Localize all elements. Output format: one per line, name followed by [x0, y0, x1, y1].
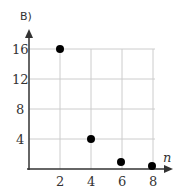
- axes: [25, 29, 173, 173]
- y-tick-12: 12: [12, 72, 29, 87]
- gridlines: [29, 49, 155, 169]
- x-tick-6: 6: [118, 174, 126, 189]
- panel-label: B): [20, 10, 32, 23]
- chart: 16 12 8 4 2 4 6 8 n B): [0, 0, 181, 190]
- y-tick-8: 8: [16, 102, 24, 117]
- x-axis-label: n: [163, 150, 171, 165]
- data-points: [56, 45, 156, 170]
- x-axis-arrow-icon: [164, 165, 173, 173]
- data-point: [148, 162, 156, 170]
- y-tick-16: 16: [12, 42, 29, 57]
- data-point: [87, 135, 95, 143]
- x-tick-8: 8: [149, 174, 157, 189]
- x-tick-4: 4: [87, 174, 95, 189]
- data-point: [117, 158, 125, 166]
- y-tick-4: 4: [16, 132, 24, 147]
- x-tick-2: 2: [56, 174, 64, 189]
- data-point: [56, 45, 64, 53]
- y-axis-arrow-icon: [25, 29, 33, 38]
